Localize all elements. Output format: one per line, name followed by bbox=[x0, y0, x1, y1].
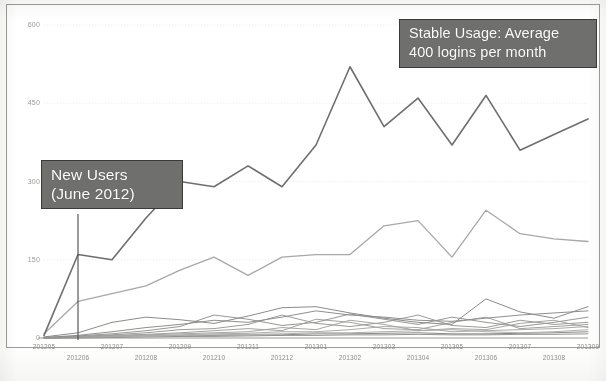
x-axis-tick-label: 201303 bbox=[373, 343, 395, 350]
y-axis-tick-label: 0 bbox=[6, 334, 40, 342]
annotation-stable-usage: Stable Usage: Average 400 logins per mon… bbox=[399, 19, 597, 68]
x-axis-tick-label: 201211 bbox=[237, 343, 259, 350]
x-axis-tick-label: 201206 bbox=[67, 354, 89, 361]
x-axis-tick-label: 201306 bbox=[475, 354, 497, 361]
annotation-stable-usage-line1: Stable Usage: Average bbox=[409, 24, 587, 43]
y-axis-tick-label: 300 bbox=[6, 178, 40, 186]
annotation-stable-usage-line2: 400 logins per month bbox=[409, 43, 587, 62]
y-axis-tick-label: 450 bbox=[6, 99, 40, 107]
x-axis-tick-label: 201302 bbox=[339, 354, 361, 361]
x-axis-tick-label: 201209 bbox=[169, 343, 191, 350]
y-axis-tick-labels: 6004503001500 bbox=[4, 0, 40, 381]
annotation-new-users-line2: (June 2012) bbox=[51, 184, 173, 203]
x-axis-tick-label: 201308 bbox=[543, 354, 565, 361]
x-axis-tick-label: 201205 bbox=[33, 343, 55, 350]
x-axis-tick-label: 201301 bbox=[305, 343, 327, 350]
x-axis-tick-label: 201304 bbox=[407, 354, 429, 361]
x-axis-tick-label: 201309 bbox=[577, 343, 599, 350]
annotation-new-users: New Users (June 2012) bbox=[41, 160, 183, 209]
y-axis-tick-label: 600 bbox=[6, 21, 40, 29]
x-axis-tick-label: 201305 bbox=[441, 343, 463, 350]
y-axis-tick-label: 150 bbox=[6, 256, 40, 264]
series-line bbox=[44, 210, 588, 334]
x-axis-tick-label: 201207 bbox=[101, 343, 123, 350]
x-axis-tick-label: 201212 bbox=[271, 354, 293, 361]
annotation-new-users-line1: New Users bbox=[51, 165, 173, 184]
x-axis-tick-label: 201307 bbox=[509, 343, 531, 350]
x-axis-tick-label: 201210 bbox=[203, 354, 225, 361]
x-axis-tick-label: 201208 bbox=[135, 354, 157, 361]
chart-container: 6004503001500 20120520120620120720120820… bbox=[0, 0, 606, 381]
